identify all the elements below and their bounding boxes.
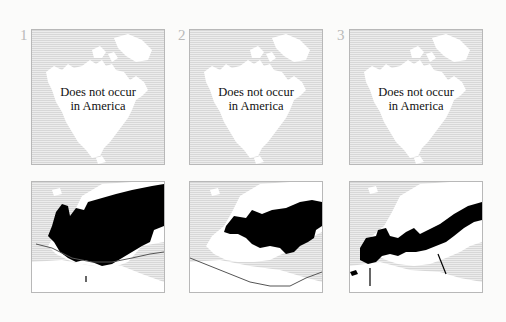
america-caption-2: Does not occur in America bbox=[190, 85, 322, 113]
europe-map-1 bbox=[31, 181, 165, 293]
europe-map-2 bbox=[189, 181, 323, 293]
caption-line-1: Does not occur bbox=[190, 85, 322, 99]
caption-line-2: in America bbox=[190, 99, 322, 113]
america-map-1: Does not occur in America bbox=[31, 29, 165, 165]
caption-line-2: in America bbox=[32, 99, 164, 113]
america-caption-3: Does not occur in America bbox=[350, 85, 482, 113]
europe-range-map bbox=[350, 182, 482, 292]
panel-number-1: 1 bbox=[20, 28, 28, 43]
caption-line-2: in America bbox=[350, 99, 482, 113]
caption-line-1: Does not occur bbox=[350, 85, 482, 99]
caption-line-1: Does not occur bbox=[32, 85, 164, 99]
europe-map-3 bbox=[349, 181, 483, 293]
panel-number-2: 2 bbox=[178, 28, 186, 43]
europe-range-map bbox=[190, 182, 322, 292]
panel-number-3: 3 bbox=[337, 28, 345, 43]
america-caption-1: Does not occur in America bbox=[32, 85, 164, 113]
america-map-3: Does not occur in America bbox=[349, 29, 483, 165]
america-map-2: Does not occur in America bbox=[189, 29, 323, 165]
europe-range-map bbox=[32, 182, 164, 292]
